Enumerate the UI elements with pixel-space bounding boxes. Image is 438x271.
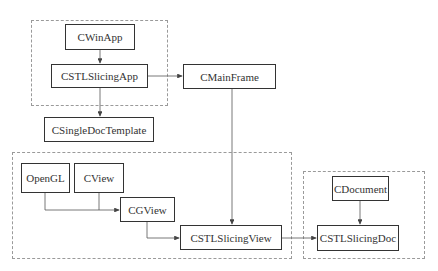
node-cgview: CGView	[120, 197, 175, 222]
node-cview: CView	[74, 163, 124, 193]
node-opengl: OpenGL	[21, 163, 70, 193]
node-cstlslicingapp: CSTLSlicingApp	[51, 64, 148, 88]
node-cstlslicingdoc: CSTLSlicingDoc	[317, 225, 399, 251]
node-cmainframe: CMainFrame	[183, 64, 276, 89]
edge-opengl-cgview	[45, 193, 119, 210]
node-cstlslicingview: CSTLSlicingView	[180, 225, 282, 250]
node-cwinapp: CWinApp	[65, 24, 135, 50]
class-diagram: CWinApp CSTLSlicingApp CMainFrame CSingl…	[0, 0, 438, 271]
node-cdocument: CDocument	[332, 176, 389, 201]
node-csingledoctemplate: CSingleDocTemplate	[44, 117, 154, 142]
edge-cgview-view	[147, 222, 179, 238]
